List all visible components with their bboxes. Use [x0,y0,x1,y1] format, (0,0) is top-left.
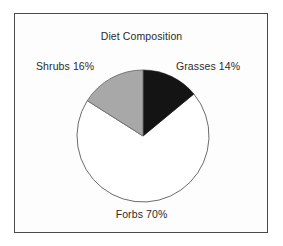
pie-label-grasses: Grasses 14% [176,60,240,72]
pie-chart-figure: Diet Composition Shrubs 16% Grasses 14% … [0,0,283,246]
pie-label-forbs: Forbs 70% [0,208,283,220]
pie-label-shrubs: Shrubs 16% [36,60,94,72]
